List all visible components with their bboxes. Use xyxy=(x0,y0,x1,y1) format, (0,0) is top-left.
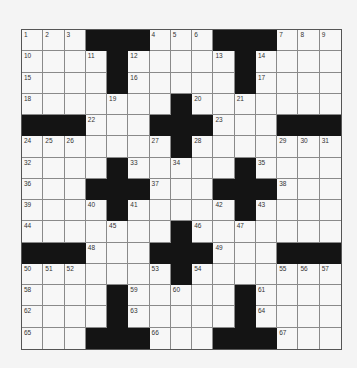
grid-cell[interactable]: 8 xyxy=(298,30,319,51)
grid-cell[interactable]: 67 xyxy=(277,328,298,349)
grid-cell[interactable] xyxy=(298,328,319,349)
grid-cell[interactable]: 23 xyxy=(213,115,234,136)
grid-cell[interactable] xyxy=(320,94,341,115)
grid-cell[interactable] xyxy=(128,94,149,115)
grid-cell[interactable]: 64 xyxy=(256,306,277,327)
grid-cell[interactable] xyxy=(43,221,64,242)
grid-cell[interactable]: 35 xyxy=(256,158,277,179)
grid-cell[interactable] xyxy=(320,73,341,94)
grid-cell[interactable]: 49 xyxy=(213,243,234,264)
grid-cell[interactable]: 16 xyxy=(128,73,149,94)
grid-cell[interactable]: 62 xyxy=(22,306,43,327)
grid-cell[interactable]: 2 xyxy=(43,30,64,51)
grid-cell[interactable]: 21 xyxy=(235,94,256,115)
grid-cell[interactable] xyxy=(43,328,64,349)
grid-cell[interactable]: 32 xyxy=(22,158,43,179)
grid-cell[interactable]: 45 xyxy=(107,221,128,242)
grid-cell[interactable]: 14 xyxy=(256,51,277,72)
grid-cell[interactable] xyxy=(150,221,171,242)
grid-cell[interactable] xyxy=(107,136,128,157)
grid-cell[interactable] xyxy=(192,328,213,349)
grid-cell[interactable] xyxy=(256,136,277,157)
grid-cell[interactable]: 26 xyxy=(65,136,86,157)
grid-cell[interactable] xyxy=(150,94,171,115)
grid-cell[interactable] xyxy=(43,179,64,200)
grid-cell[interactable] xyxy=(128,221,149,242)
grid-cell[interactable] xyxy=(298,179,319,200)
grid-cell[interactable] xyxy=(213,158,234,179)
grid-cell[interactable]: 38 xyxy=(277,179,298,200)
grid-cell[interactable]: 65 xyxy=(22,328,43,349)
grid-cell[interactable] xyxy=(65,306,86,327)
grid-cell[interactable] xyxy=(213,136,234,157)
grid-cell[interactable]: 27 xyxy=(150,136,171,157)
grid-cell[interactable] xyxy=(192,200,213,221)
grid-cell[interactable]: 59 xyxy=(128,285,149,306)
grid-cell[interactable] xyxy=(235,136,256,157)
grid-cell[interactable] xyxy=(277,73,298,94)
grid-cell[interactable] xyxy=(277,285,298,306)
grid-cell[interactable] xyxy=(107,264,128,285)
grid-cell[interactable] xyxy=(213,221,234,242)
grid-cell[interactable]: 37 xyxy=(150,179,171,200)
grid-cell[interactable] xyxy=(213,94,234,115)
grid-cell[interactable] xyxy=(256,221,277,242)
grid-cell[interactable]: 34 xyxy=(171,158,192,179)
grid-cell[interactable] xyxy=(298,221,319,242)
grid-cell[interactable] xyxy=(277,221,298,242)
grid-cell[interactable] xyxy=(298,200,319,221)
grid-cell[interactable] xyxy=(43,306,64,327)
grid-cell[interactable]: 50 xyxy=(22,264,43,285)
grid-cell[interactable] xyxy=(192,179,213,200)
grid-cell[interactable] xyxy=(171,73,192,94)
grid-cell[interactable] xyxy=(107,115,128,136)
grid-cell[interactable] xyxy=(65,94,86,115)
grid-cell[interactable] xyxy=(65,328,86,349)
grid-cell[interactable] xyxy=(171,306,192,327)
grid-cell[interactable] xyxy=(86,73,107,94)
grid-cell[interactable]: 15 xyxy=(22,73,43,94)
grid-cell[interactable] xyxy=(192,285,213,306)
grid-cell[interactable]: 31 xyxy=(320,136,341,157)
grid-cell[interactable] xyxy=(86,136,107,157)
grid-cell[interactable]: 47 xyxy=(235,221,256,242)
grid-cell[interactable]: 44 xyxy=(22,221,43,242)
grid-cell[interactable] xyxy=(235,115,256,136)
grid-cell[interactable] xyxy=(256,264,277,285)
grid-cell[interactable]: 30 xyxy=(298,136,319,157)
grid-cell[interactable] xyxy=(277,94,298,115)
grid-cell[interactable]: 39 xyxy=(22,200,43,221)
grid-cell[interactable] xyxy=(256,94,277,115)
grid-cell[interactable] xyxy=(320,51,341,72)
grid-cell[interactable] xyxy=(192,158,213,179)
grid-cell[interactable] xyxy=(43,51,64,72)
grid-cell[interactable] xyxy=(65,200,86,221)
grid-cell[interactable]: 33 xyxy=(128,158,149,179)
grid-cell[interactable]: 22 xyxy=(86,115,107,136)
grid-cell[interactable]: 53 xyxy=(150,264,171,285)
grid-cell[interactable]: 28 xyxy=(192,136,213,157)
grid-cell[interactable]: 48 xyxy=(86,243,107,264)
grid-cell[interactable] xyxy=(43,158,64,179)
grid-cell[interactable] xyxy=(128,115,149,136)
grid-cell[interactable]: 29 xyxy=(277,136,298,157)
grid-cell[interactable]: 19 xyxy=(107,94,128,115)
grid-cell[interactable]: 10 xyxy=(22,51,43,72)
grid-cell[interactable]: 52 xyxy=(65,264,86,285)
grid-cell[interactable]: 54 xyxy=(192,264,213,285)
grid-cell[interactable]: 41 xyxy=(128,200,149,221)
grid-cell[interactable] xyxy=(65,51,86,72)
grid-cell[interactable] xyxy=(171,51,192,72)
grid-cell[interactable]: 51 xyxy=(43,264,64,285)
grid-cell[interactable] xyxy=(192,306,213,327)
grid-cell[interactable] xyxy=(65,73,86,94)
grid-cell[interactable]: 7 xyxy=(277,30,298,51)
grid-cell[interactable] xyxy=(86,94,107,115)
grid-cell[interactable] xyxy=(235,243,256,264)
grid-cell[interactable]: 56 xyxy=(298,264,319,285)
grid-cell[interactable] xyxy=(213,285,234,306)
grid-cell[interactable] xyxy=(298,51,319,72)
grid-cell[interactable]: 60 xyxy=(171,285,192,306)
grid-cell[interactable]: 57 xyxy=(320,264,341,285)
grid-cell[interactable] xyxy=(277,51,298,72)
